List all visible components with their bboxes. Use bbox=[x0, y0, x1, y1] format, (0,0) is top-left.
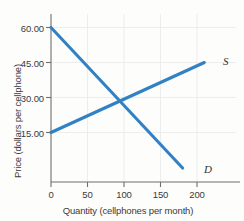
x-tick-marks bbox=[51, 182, 197, 187]
x-tick-label-100: 100 bbox=[116, 189, 132, 200]
demand-curve-label: D bbox=[204, 163, 212, 175]
supply-curve-label: S bbox=[223, 55, 229, 67]
y-axis-title: Price (dollars per cellphone) bbox=[12, 64, 23, 178]
y-tick-label-60: 60.00 bbox=[0, 22, 44, 33]
supply-demand-chart: 15.00 30.00 45.00 60.00 0 50 100 150 200… bbox=[0, 0, 244, 221]
x-axis-title: Quantity (cellphones per month) bbox=[63, 205, 194, 216]
y-tick-marks bbox=[46, 28, 51, 133]
x-tick-label-50: 50 bbox=[82, 189, 92, 200]
chart-canvas bbox=[0, 0, 244, 221]
x-tick-label-150: 150 bbox=[153, 189, 169, 200]
horizontal-gridlines bbox=[51, 28, 236, 133]
x-tick-label-0: 0 bbox=[48, 189, 53, 200]
x-tick-label-200: 200 bbox=[189, 189, 205, 200]
